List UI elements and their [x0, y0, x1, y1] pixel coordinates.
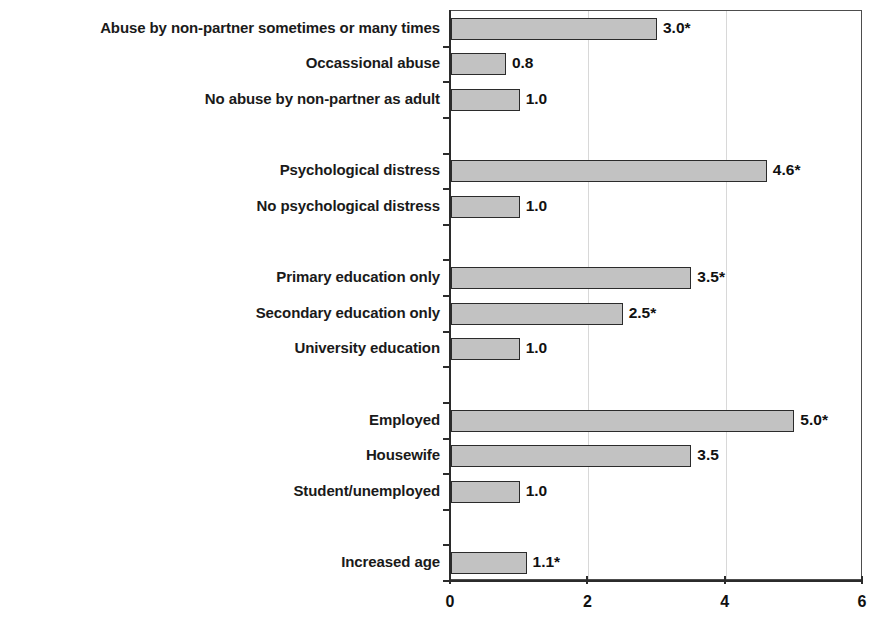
category-label: Occassional abuse: [306, 55, 440, 70]
y-axis-tick: [443, 295, 450, 297]
bar-value-label: 5.0*: [800, 412, 828, 428]
bar-chart: Abuse by non-partner sometimes or many t…: [0, 0, 893, 637]
category-label: Abuse by non-partner sometimes or many t…: [100, 20, 440, 35]
y-axis-tick: [443, 331, 450, 333]
bar: [451, 267, 691, 289]
bar-value-label: 3.0*: [663, 20, 691, 36]
y-axis-tick: [443, 224, 450, 226]
bar: [451, 303, 623, 325]
y-axis-tick: [443, 46, 450, 48]
bar: [451, 18, 657, 40]
bar: [451, 410, 794, 432]
x-axis-tick-label: 4: [705, 594, 745, 610]
category-label: Student/unemployed: [293, 483, 440, 498]
bar-value-label: 1.0: [526, 483, 548, 499]
y-axis-tick: [443, 117, 450, 119]
bar: [451, 445, 691, 467]
bar: [451, 481, 520, 503]
x-axis-tick: [449, 576, 451, 584]
category-label: Primary education only: [276, 269, 440, 284]
category-label: Secondary education only: [256, 305, 440, 320]
x-axis-tick-label: 0: [430, 594, 470, 610]
category-label: Psychological distress: [280, 162, 440, 177]
category-label: University education: [294, 340, 440, 355]
gridline: [726, 11, 727, 579]
y-axis-tick: [443, 438, 450, 440]
bar-value-label: 1.0: [526, 198, 548, 214]
category-label: No psychological distress: [257, 198, 440, 213]
bar: [451, 160, 767, 182]
x-axis-line: [449, 580, 863, 582]
y-axis-tick: [443, 188, 450, 190]
bar-value-label: 1.1*: [533, 554, 561, 570]
y-axis-tick: [443, 366, 450, 368]
x-axis-tick-label: 2: [567, 594, 607, 610]
bar-value-label: 3.5*: [697, 269, 725, 285]
category-label: No abuse by non-partner as adult: [205, 91, 440, 106]
bar-value-label: 0.8: [512, 55, 534, 71]
category-label: Increased age: [341, 554, 440, 569]
plot-area: [450, 10, 862, 580]
y-axis-tick: [443, 509, 450, 511]
x-axis-tick: [861, 576, 863, 584]
x-axis-tick: [724, 576, 726, 584]
bar-value-label: 3.5: [697, 447, 719, 463]
x-axis-tick-label: 6: [842, 594, 882, 610]
y-axis-tick: [443, 259, 450, 261]
bar-value-label: 1.0: [526, 91, 548, 107]
y-axis-tick: [443, 81, 450, 83]
bar: [451, 53, 506, 75]
bar: [451, 338, 520, 360]
bar: [451, 552, 527, 574]
y-axis-tick: [443, 153, 450, 155]
bar: [451, 196, 520, 218]
y-axis-tick: [443, 544, 450, 546]
gridline: [588, 11, 589, 579]
y-axis-tick: [443, 473, 450, 475]
y-axis-tick: [443, 402, 450, 404]
bar: [451, 89, 520, 111]
bar-value-label: 1.0: [526, 340, 548, 356]
category-label: Housewife: [366, 447, 440, 462]
bar-value-label: 2.5*: [629, 305, 657, 321]
category-label: Employed: [369, 412, 440, 427]
bar-value-label: 4.6*: [773, 162, 801, 178]
x-axis-tick: [586, 576, 588, 584]
